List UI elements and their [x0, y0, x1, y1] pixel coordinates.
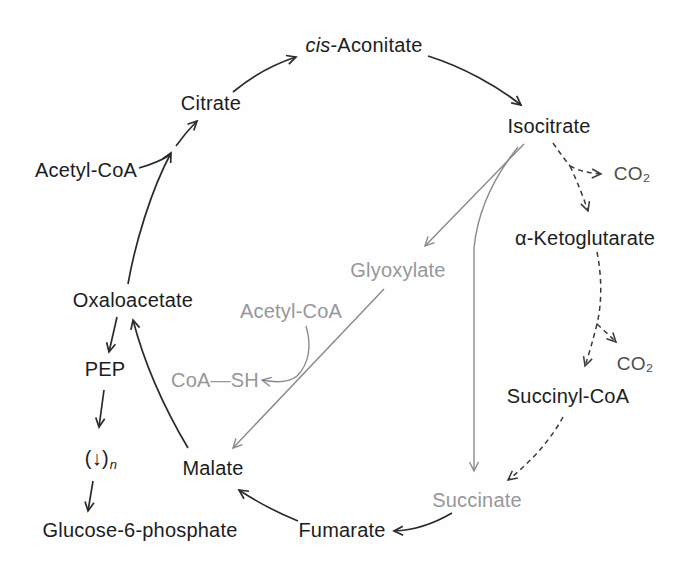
arrow-pep-to-poly [99, 390, 104, 427]
arrow-oxaloacetate-to-pep [109, 317, 117, 352]
node-succinate: Succinate [432, 490, 522, 510]
arrow-fumarate-to-malate [239, 490, 298, 521]
arrow-cis-aconitate-to-isocitrate [428, 56, 521, 105]
arrow-alpha-ketoglutarate-to-co2 [597, 324, 616, 342]
node-acetyl-coa-mid: Acetyl-CoA [240, 301, 342, 321]
cis-aconitate-rest-part: -Aconitate [330, 34, 422, 56]
arrow-acetyl-coa-to-coa-sh [262, 326, 309, 382]
node-co2-upper: CO₂ [614, 164, 650, 183]
arrow-isocitrate-to-co2 [570, 166, 601, 174]
node-poly-arrow: (↓)n [85, 448, 117, 471]
node-malate: Malate [182, 458, 243, 478]
node-acetyl-coa-top: Acetyl-CoA [35, 160, 137, 180]
pathway-diagram: cis-Aconitate Citrate Isocitrate Acetyl-… [0, 0, 688, 568]
cis-aconitate-italic-part: cis [305, 34, 330, 56]
node-citrate: Citrate [181, 93, 241, 113]
arrow-succinyl-coa-to-succinate [508, 417, 563, 480]
arrow-isocitrate-to-succinate [474, 147, 518, 471]
arrow-citrate-to-cis-aconitate [233, 57, 296, 92]
arrow-layer [0, 0, 688, 568]
node-fumarate: Fumarate [298, 520, 385, 540]
node-co2-lower: CO₂ [617, 354, 653, 373]
node-glucose-6-phosphate: Glucose-6-phosphate [42, 520, 237, 540]
node-cis-aconitate: cis-Aconitate [305, 35, 422, 55]
node-coa-sh: CoA—SH [171, 370, 259, 390]
node-pep: PEP [85, 359, 126, 379]
node-glyoxylate: Glyoxylate [350, 260, 445, 280]
poly-arrow-symbol: (↓) [85, 447, 109, 469]
arrow-poly-to-glucose-6-phosphate [88, 481, 93, 511]
arrow-isocitrate-dashed-stem [553, 143, 570, 166]
arrow-alpha-ketoglutarate-to-succinyl-coa [585, 324, 597, 366]
node-oxaloacetate: Oxaloacetate [73, 290, 193, 310]
node-alpha-ketoglutarate: α-Ketoglutarate [515, 228, 655, 248]
node-succinyl-coa: Succinyl-CoA [507, 386, 629, 406]
poly-arrow-subscript: n [110, 457, 117, 472]
node-isocitrate: Isocitrate [507, 116, 590, 136]
arrow-succinate-to-fumarate [394, 513, 452, 531]
arrow-isocitrate-to-alpha-ketoglutarate [570, 166, 588, 211]
arrow-alpha-ketoglutarate-dashed-stem [597, 252, 601, 324]
arrow-oxaloacetate-to-citrate-upper [176, 121, 197, 146]
